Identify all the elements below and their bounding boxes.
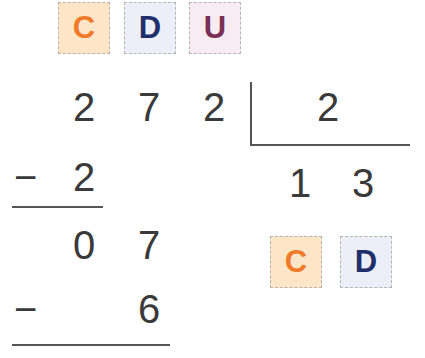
underline-2 [12,344,170,346]
remainder-digit-tens: 0 [64,225,104,265]
place-value-u-box: U [189,2,241,54]
place-value-d-box: D [124,2,176,54]
quotient-digit-tens: 1 [280,163,320,203]
subtrahend-2-digit: 6 [129,289,169,329]
underline-1 [12,206,103,208]
place-value-c-box: C [58,2,110,54]
division-bracket-vertical [250,82,252,146]
quotient-place-value-d-box: D [340,236,392,288]
subtraction-sign-1: − [14,157,37,197]
remainder-digit-units: 7 [129,225,169,265]
dividend-digit-units: 2 [194,87,234,127]
dividend-digit-tens: 7 [129,87,169,127]
division-bracket-horizontal [250,144,410,146]
subtrahend-1-digit: 2 [64,157,104,197]
quotient-place-value-c-box: C [270,236,322,288]
subtraction-sign-2: − [14,289,37,329]
quotient-digit-units: 3 [343,163,383,203]
dividend-digit-hundreds: 2 [64,87,104,127]
divisor: 2 [308,87,348,127]
